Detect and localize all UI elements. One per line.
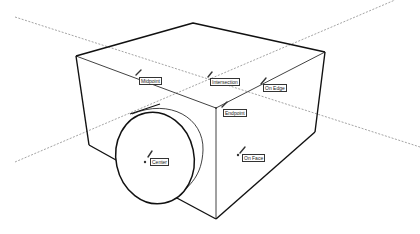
box-edges — [76, 23, 325, 219]
label-on-face: On Face — [242, 154, 265, 162]
guide-line-2 — [15, 0, 395, 162]
label-intersection: Intersection — [210, 78, 240, 86]
label-center: Center — [150, 158, 169, 166]
label-endpoint: Endpoint — [223, 109, 247, 117]
diagram-canvas: Midpoint Intersection On Edge Endpoint C… — [0, 0, 420, 234]
endpoint-point — [215, 107, 217, 109]
box-drawing — [0, 0, 420, 234]
label-on-edge: On Edge — [263, 84, 287, 92]
on-face-point — [237, 154, 239, 156]
label-midpoint: Midpoint — [139, 77, 162, 85]
center-point — [144, 161, 146, 163]
